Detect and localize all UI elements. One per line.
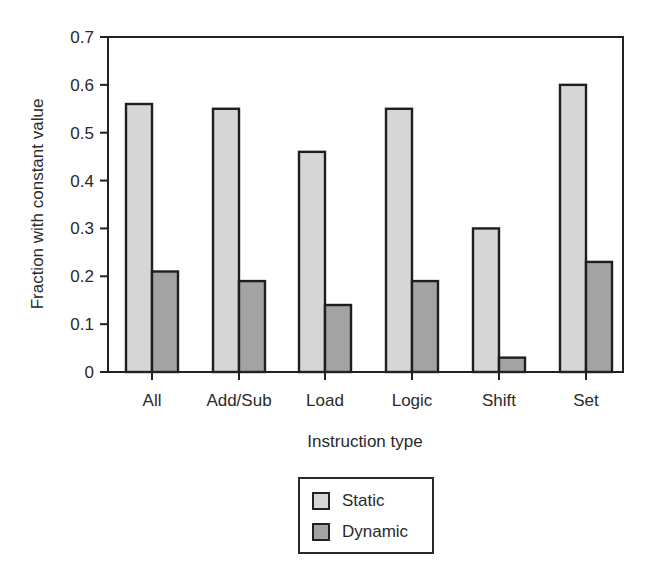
bar-chart: 00.10.20.30.40.50.60.7 AllAdd/SubLoadLog…	[0, 0, 646, 470]
bar-static-addsub	[213, 109, 239, 372]
y-tick-label: 0	[85, 363, 94, 382]
x-axis: AllAdd/SubLoadLogicShiftSet	[143, 372, 599, 410]
bar-dynamic-load	[325, 305, 351, 372]
legend-swatch-dynamic	[312, 523, 330, 541]
x-tick-label: Load	[306, 391, 344, 410]
x-tick-label: Shift	[482, 391, 516, 410]
plot-frame	[108, 37, 623, 372]
bars-group	[126, 85, 612, 372]
legend-item-dynamic: Dynamic	[312, 521, 408, 543]
bar-dynamic-shift	[499, 358, 525, 372]
y-tick-label: 0.4	[70, 172, 94, 191]
x-axis-title: Instruction type	[307, 432, 422, 451]
bar-dynamic-set	[586, 262, 612, 372]
bar-static-shift	[473, 228, 499, 372]
bar-static-set	[560, 85, 586, 372]
bar-static-logic	[386, 109, 412, 372]
bar-static-all	[126, 104, 152, 372]
x-tick-label: Set	[573, 391, 599, 410]
legend-swatch-static	[312, 492, 330, 510]
bar-dynamic-logic	[412, 281, 438, 372]
legend-label-dynamic: Dynamic	[342, 522, 408, 542]
bar-dynamic-addsub	[239, 281, 265, 372]
legend-item-static: Static	[312, 490, 385, 512]
legend: Static Dynamic	[298, 477, 434, 554]
bar-dynamic-all	[152, 272, 178, 373]
legend-label-static: Static	[342, 491, 385, 511]
y-axis-title: Fraction with constant value	[28, 99, 47, 310]
bar-static-load	[299, 152, 325, 372]
y-tick-label: 0.7	[70, 28, 94, 47]
x-tick-label: Add/Sub	[206, 391, 271, 410]
y-tick-label: 0.2	[70, 267, 94, 286]
y-axis: 00.10.20.30.40.50.60.7	[70, 28, 108, 382]
x-tick-label: All	[143, 391, 162, 410]
y-tick-label: 0.6	[70, 76, 94, 95]
y-tick-label: 0.3	[70, 219, 94, 238]
y-tick-label: 0.5	[70, 124, 94, 143]
y-tick-label: 0.1	[70, 315, 94, 334]
x-tick-label: Logic	[392, 391, 433, 410]
